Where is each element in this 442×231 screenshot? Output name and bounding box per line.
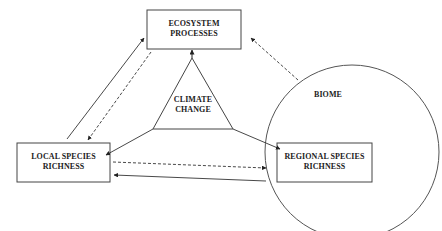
- climate-change-label: CLIMATE CHANGE: [157, 95, 229, 115]
- regional-species-richness-label: REGIONAL SPECIES RICHNESS: [277, 152, 372, 172]
- arrow-biome-to-ecosystem-dashed: [251, 38, 298, 80]
- arrow-climate-to-local: [106, 129, 153, 155]
- local-line1: LOCAL SPECIES: [17, 152, 110, 162]
- arrow-local-to-regional-dashed: [113, 162, 266, 168]
- arrow-ecosystem-to-local-dashed: [88, 52, 151, 140]
- ecosystem-processes-label: ECOSYSTEM PROCESSES: [147, 19, 241, 39]
- ecosystem-line1: ECOSYSTEM: [147, 19, 241, 29]
- arrow-regional-to-local: [114, 175, 266, 181]
- climate-change-triangle: [153, 58, 233, 129]
- biome-text: BIOME: [300, 90, 356, 100]
- biome-label: BIOME: [300, 90, 356, 100]
- climate-line2: CHANGE: [157, 105, 229, 115]
- arrow-climate-to-regional: [233, 129, 280, 149]
- local-species-richness-label: LOCAL SPECIES RICHNESS: [17, 152, 110, 172]
- local-line2: RICHNESS: [17, 162, 110, 172]
- climate-line1: CLIMATE: [157, 95, 229, 105]
- arrow-local-to-ecosystem: [67, 38, 144, 139]
- regional-line2: RICHNESS: [277, 162, 372, 172]
- ecosystem-line2: PROCESSES: [147, 29, 241, 39]
- regional-line1: REGIONAL SPECIES: [277, 152, 372, 162]
